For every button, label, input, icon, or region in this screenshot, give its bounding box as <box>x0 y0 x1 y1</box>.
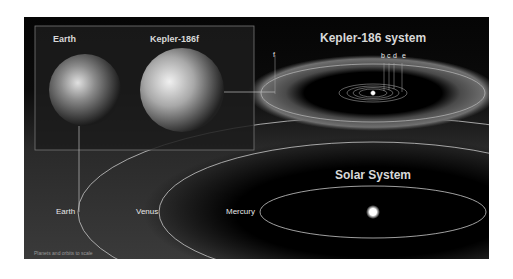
solar-dark-zone <box>143 137 489 259</box>
kepler-label-b: b <box>381 52 385 59</box>
solar-label-mercury: Mercury <box>226 207 255 216</box>
kepler-label-c: c <box>387 52 391 59</box>
kepler-label-d: d <box>393 52 397 59</box>
solar-label-venus: Venus <box>136 207 158 216</box>
footnote: Planets and orbits to scale <box>34 250 93 256</box>
inset-label-earth: Earth <box>53 34 76 44</box>
kepler-system-title: Kepler-186 system <box>320 31 426 45</box>
solar-label-earth: Earth <box>56 207 75 216</box>
kepler-habitable-zone <box>248 55 489 131</box>
diagram-panel: Earth Kepler-186f Kepler-186 system b c … <box>24 17 489 259</box>
solar-system-title: Solar System <box>335 168 411 182</box>
kepler-186f-planet-image <box>140 48 224 132</box>
kepler-star-icon <box>370 90 376 96</box>
kepler-label-e: e <box>402 52 406 59</box>
inset-label-kepler-186f: Kepler-186f <box>150 34 199 44</box>
kepler-label-f: f <box>273 51 275 58</box>
sun-icon <box>366 205 380 219</box>
earth-planet-image <box>49 54 121 126</box>
diagram-graphics <box>24 17 489 259</box>
